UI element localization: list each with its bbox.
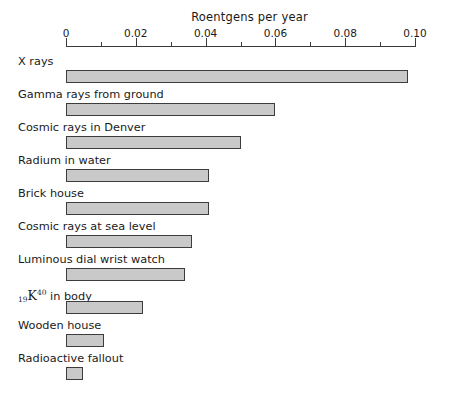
bar-track — [66, 103, 415, 117]
element-symbol: K — [28, 288, 37, 303]
x-axis-minor-tick — [380, 42, 381, 47]
bar-row: Cosmic rays at sea level — [0, 220, 451, 253]
bar-rows: X raysGamma rays from groundCosmic rays … — [0, 55, 451, 385]
x-axis-minor-tick — [101, 42, 102, 47]
axis-title-text: Roentgens per year — [191, 10, 308, 24]
bar-track — [66, 202, 415, 216]
bar-track — [66, 70, 415, 84]
bar-track — [66, 136, 415, 150]
bar-row: Brick house — [0, 187, 451, 220]
bar-row: Gamma rays from ground — [0, 88, 451, 121]
radiation-exposure-bar-chart: Roentgens per year 00.020.040.060.080.10… — [0, 0, 451, 400]
bar — [66, 136, 241, 149]
bar-track — [66, 301, 415, 315]
bar-row-label: Brick house — [18, 187, 84, 200]
bar-row: Radium in water — [0, 154, 451, 187]
bar — [66, 268, 185, 281]
x-axis-major-tick — [275, 38, 276, 47]
x-axis-minor-tick — [241, 42, 242, 47]
bar-track — [66, 235, 415, 249]
bar-row: Cosmic rays in Denver — [0, 121, 451, 154]
bar-track — [66, 367, 415, 381]
x-axis: 00.020.040.060.080.10 — [66, 27, 415, 55]
element-superscript: 40 — [37, 288, 47, 297]
bar — [66, 169, 209, 182]
bar-row-label: Radium in water — [18, 154, 111, 167]
bar-row: Wooden house — [0, 319, 451, 352]
bar-row-label: Cosmic rays in Denver — [18, 121, 145, 134]
bar — [66, 301, 143, 314]
bar — [66, 70, 408, 83]
bar — [66, 202, 209, 215]
bar-row-label: Gamma rays from ground — [18, 88, 164, 101]
bar-row-label: Luminous dial wrist watch — [18, 253, 165, 266]
x-axis-major-tick — [415, 38, 416, 47]
x-axis-minor-tick — [171, 42, 172, 47]
x-axis-major-tick — [136, 38, 137, 47]
bar-row: Radioactive fallout — [0, 352, 451, 385]
x-axis-minor-tick — [310, 42, 311, 47]
bar — [66, 235, 192, 248]
bar-row-label: Cosmic rays at sea level — [18, 220, 156, 233]
bar-track — [66, 334, 415, 348]
bar-row-label: Radioactive fallout — [18, 352, 123, 365]
bar-track — [66, 169, 415, 183]
element-subscript: 19 — [18, 295, 28, 304]
bar-row-label: X rays — [18, 55, 53, 68]
bar-row: 19K40 in body — [0, 286, 451, 319]
bar-row-label: Wooden house — [18, 319, 101, 332]
bar-row: X rays — [0, 55, 451, 88]
bar-track — [66, 268, 415, 282]
bar-row: Luminous dial wrist watch — [0, 253, 451, 286]
bar — [66, 103, 275, 116]
x-axis-major-tick — [345, 38, 346, 47]
bar — [66, 334, 104, 347]
x-axis-major-tick — [206, 38, 207, 47]
x-axis-major-tick — [66, 38, 67, 47]
bar — [66, 367, 83, 380]
chart-axis-title: Roentgens per year — [0, 10, 451, 24]
